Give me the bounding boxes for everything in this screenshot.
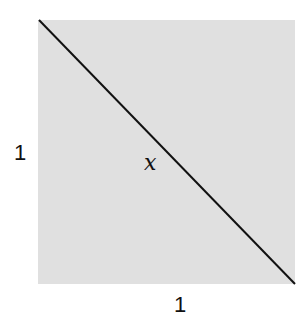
left-side-label: 1 — [14, 140, 26, 165]
bottom-side-label: 1 — [174, 292, 186, 317]
diagonal-label: x — [144, 150, 157, 175]
unit-square-diagram: x 1 1 — [0, 0, 305, 331]
